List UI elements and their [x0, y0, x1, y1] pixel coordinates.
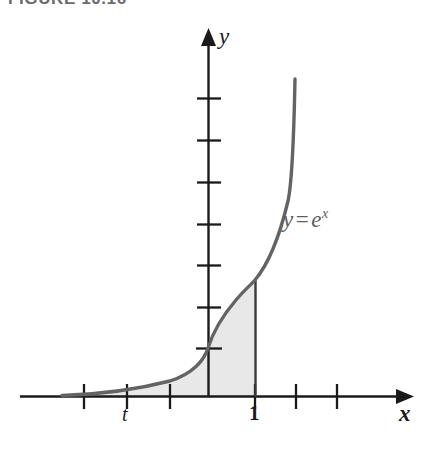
- shaded-area-under-curve: [75, 280, 255, 396]
- y-axis-arrowhead: [201, 28, 216, 46]
- curve-label-equals: =: [294, 207, 311, 232]
- figure-container: FIGURE 10.16: [0, 0, 439, 450]
- x-tick-label-t: t: [122, 403, 128, 426]
- exponential-curve: [62, 79, 295, 396]
- exponential-function-plot: [0, 0, 439, 450]
- curve-label-lhs: y: [283, 207, 294, 232]
- curve-equation-label: y=ex: [283, 206, 329, 233]
- x-tick-label-one: 1: [249, 401, 260, 426]
- curve-label-base: e: [311, 207, 322, 232]
- x-axis-label: x: [399, 401, 411, 427]
- y-axis-label: y: [219, 24, 229, 50]
- curve-label-exponent: x: [322, 206, 329, 221]
